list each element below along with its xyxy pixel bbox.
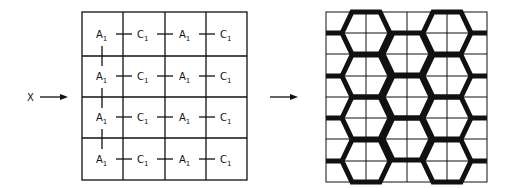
- cell-label: A1: [96, 112, 107, 126]
- cell-label: C1: [220, 71, 231, 85]
- cell-label: C1: [137, 154, 148, 168]
- input-label: X: [27, 92, 34, 103]
- cell-label: A1: [179, 154, 190, 168]
- transform-arrow-icon: [270, 94, 298, 100]
- cell-label: C1: [220, 29, 231, 43]
- cell-label: A1: [179, 29, 190, 43]
- cell-label: A1: [179, 112, 190, 126]
- input-arrow-icon: [40, 94, 68, 100]
- diagram: X A1C1A1C1A1C1A1C1A1C1A1C1A1C1A1C1: [0, 0, 513, 188]
- cell-label: C1: [137, 29, 148, 43]
- cell-label: C1: [220, 154, 231, 168]
- cell-label: A1: [179, 71, 190, 85]
- cell-label: C1: [137, 112, 148, 126]
- cell-label: A1: [96, 154, 107, 168]
- cell-label: A1: [96, 71, 107, 85]
- cell-label: A1: [96, 29, 107, 43]
- cell-label: C1: [220, 112, 231, 126]
- cell-label: C1: [137, 71, 148, 85]
- left-grid-cells: A1C1A1C1A1C1A1C1A1C1A1C1A1C1A1C1: [96, 29, 231, 168]
